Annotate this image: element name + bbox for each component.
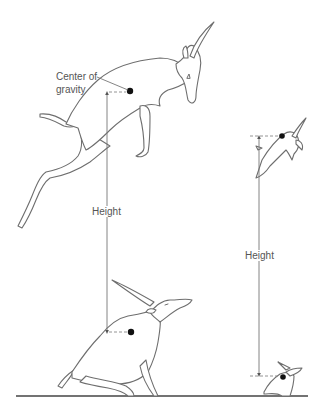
height-label-left: Height bbox=[91, 206, 122, 217]
center-of-gravity-dot-small-airborne bbox=[279, 133, 285, 139]
center-of-gravity-label-line2: gravity bbox=[56, 84, 85, 95]
diagram-canvas bbox=[0, 0, 322, 410]
jump-height-diagram: Center of gravity Height Height bbox=[0, 0, 322, 410]
center-of-gravity-dot-small-crouched bbox=[280, 374, 286, 380]
large-antelope-crouched bbox=[58, 280, 192, 396]
center-of-gravity-dot-large-crouched bbox=[128, 329, 134, 335]
large-antelope-airborne bbox=[18, 22, 214, 228]
small-antelope-airborne bbox=[256, 118, 306, 178]
center-of-gravity-label-line1: Center of bbox=[56, 71, 97, 82]
height-label-right: Height bbox=[244, 250, 275, 261]
center-of-gravity-dot-large-airborne bbox=[127, 88, 133, 94]
